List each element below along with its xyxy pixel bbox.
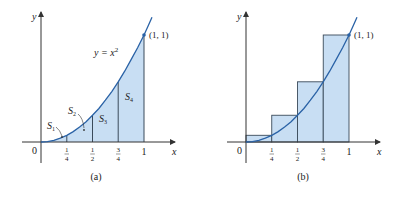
tick-1: 1 <box>142 146 147 157</box>
tick-3-4: 3 4 <box>321 146 326 163</box>
svg-text:3: 3 <box>321 146 325 154</box>
svg-text:2: 2 <box>296 155 300 163</box>
panel-b: y x 0 (1, 1) 1 4 1 2 3 4 1 (b) <box>227 11 382 183</box>
origin-label: 0 <box>237 145 242 156</box>
svg-text:3: 3 <box>116 146 120 154</box>
svg-text:1: 1 <box>65 146 69 154</box>
x-axis-label: x <box>171 146 177 157</box>
strip-label-s1: S1 <box>47 120 55 132</box>
svg-text:4: 4 <box>116 155 120 163</box>
svg-text:1: 1 <box>91 146 95 154</box>
svg-text:2: 2 <box>91 155 95 163</box>
strip-label-s2: S2 <box>68 105 76 117</box>
y-axis-label: y <box>236 11 242 22</box>
point-1-1 <box>347 33 351 37</box>
tick-1-2: 1 2 <box>295 146 300 163</box>
svg-text:1: 1 <box>296 146 300 154</box>
s1-pointer <box>56 127 62 136</box>
tick-3-4: 3 4 <box>116 146 121 163</box>
panel-label-b: (b) <box>297 171 309 183</box>
figure: y x 0 (1, 1) y = x2 S1 S2 S3 S4 1 4 1 2 … <box>0 0 405 198</box>
point-1-1 <box>142 33 146 37</box>
curve-label: y = x2 <box>93 46 119 58</box>
rect-4 <box>323 35 349 142</box>
tick-1-2: 1 2 <box>90 146 95 163</box>
s1-dot <box>61 136 63 138</box>
tick-1-4: 1 4 <box>270 146 275 163</box>
panel-a: y x 0 (1, 1) y = x2 S1 S2 S3 S4 1 4 1 2 … <box>22 11 177 183</box>
svg-text:4: 4 <box>270 155 274 163</box>
svg-text:4: 4 <box>321 155 325 163</box>
y-axis-label: y <box>31 11 37 22</box>
svg-text:4: 4 <box>65 155 69 163</box>
origin-label: 0 <box>32 145 37 156</box>
point-label: (1, 1) <box>354 30 374 40</box>
rect-1 <box>246 135 272 142</box>
tick-1: 1 <box>347 146 352 157</box>
x-axis-label: x <box>376 146 382 157</box>
point-label: (1, 1) <box>149 30 169 40</box>
s2-dot <box>83 129 85 131</box>
svg-text:1: 1 <box>270 146 274 154</box>
tick-1-4: 1 4 <box>65 146 70 163</box>
panel-label-a: (a) <box>90 171 101 183</box>
